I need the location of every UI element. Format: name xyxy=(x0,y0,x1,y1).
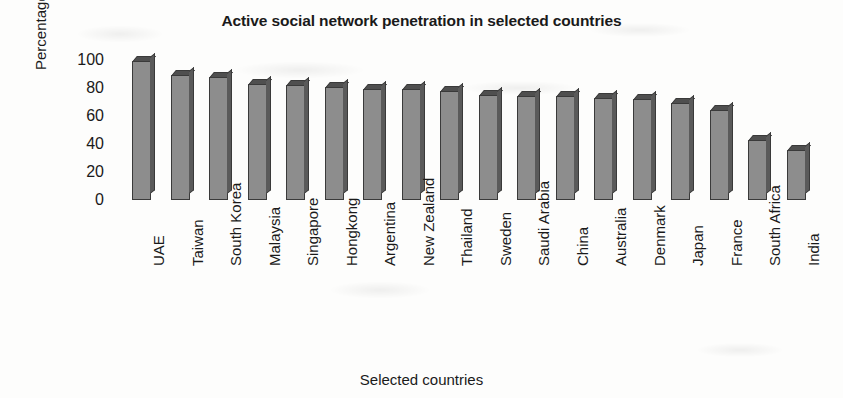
x-tick-label: Singapore xyxy=(304,198,321,266)
x-tick-label: New Zealand xyxy=(420,178,437,266)
bar[interactable] xyxy=(479,95,498,200)
bar[interactable] xyxy=(209,77,228,200)
x-tick-label: UAE xyxy=(150,235,167,266)
bar[interactable] xyxy=(248,84,267,200)
bar[interactable] xyxy=(440,91,459,200)
plot-area: Percentage 020406080100 UAETaiwanSouth K… xyxy=(110,60,810,200)
x-tick-label: Sweden xyxy=(497,212,514,266)
y-tick-label: 40 xyxy=(86,136,104,152)
bar[interactable] xyxy=(787,150,806,200)
bar[interactable] xyxy=(517,96,536,200)
y-tick-label: 100 xyxy=(77,52,104,68)
bar[interactable] xyxy=(402,89,421,200)
bar[interactable] xyxy=(556,96,575,200)
bar[interactable] xyxy=(748,140,767,200)
x-tick-label: South Africa xyxy=(766,185,783,266)
bar[interactable] xyxy=(171,75,190,200)
x-axis-title: Selected countries xyxy=(0,371,843,388)
y-tick-label: 0 xyxy=(95,192,104,208)
x-tick-label: Hongkong xyxy=(343,198,360,266)
bar[interactable] xyxy=(633,99,652,200)
bar[interactable] xyxy=(671,103,690,200)
x-tick-label: Malaysia xyxy=(266,207,283,266)
y-tick-label: 80 xyxy=(86,80,104,96)
x-tick-label: South Korea xyxy=(227,183,244,266)
y-axis-tick-labels: 020406080100 xyxy=(44,50,104,210)
x-tick-label: China xyxy=(574,227,591,266)
bar[interactable] xyxy=(286,85,305,200)
bar[interactable] xyxy=(594,98,613,200)
chart-title: Active social network penetration in sel… xyxy=(0,12,843,30)
x-tick-label: India xyxy=(805,233,822,266)
x-tick-label: Denmark xyxy=(651,205,668,266)
x-tick-label: Argentina xyxy=(381,202,398,266)
bar[interactable] xyxy=(363,89,382,200)
x-tick-label: France xyxy=(728,219,745,266)
x-tick-label: Saudi Arabia xyxy=(535,181,552,266)
bar[interactable] xyxy=(325,87,344,200)
y-tick-label: 20 xyxy=(86,164,104,180)
x-tick-label: Japan xyxy=(689,225,706,266)
y-tick-label: 60 xyxy=(86,108,104,124)
x-tick-label: Australia xyxy=(612,208,629,266)
bar-series: UAETaiwanSouth KoreaMalaysiaSingaporeHon… xyxy=(110,60,810,200)
x-tick-label: Taiwan xyxy=(189,219,206,266)
x-tick-label: Thailand xyxy=(458,208,475,266)
bar[interactable] xyxy=(710,110,729,200)
bar[interactable] xyxy=(132,61,151,200)
